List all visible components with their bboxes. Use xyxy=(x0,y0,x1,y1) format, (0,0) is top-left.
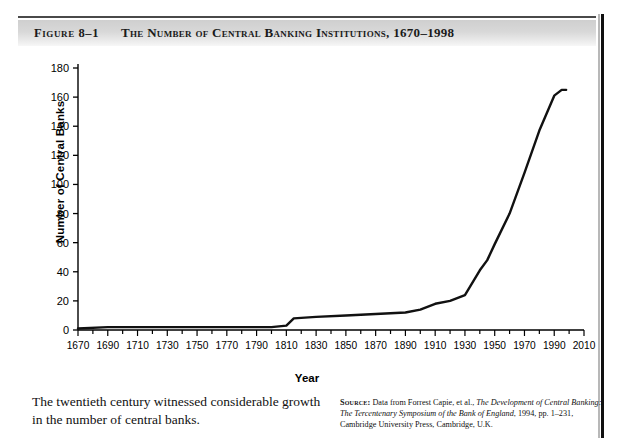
svg-text:1810: 1810 xyxy=(275,340,298,351)
figure-source-note: Source: Data from Forrest Capie, et al.,… xyxy=(340,397,602,431)
svg-text:0: 0 xyxy=(63,324,69,336)
svg-text:40: 40 xyxy=(57,266,69,278)
svg-text:1750: 1750 xyxy=(186,340,209,351)
figure-page: Figure 8–1 The Number of Central Banking… xyxy=(0,0,619,440)
figure-footer: The twentieth century witnessed consider… xyxy=(18,393,596,437)
svg-text:1970: 1970 xyxy=(513,340,536,351)
x-axis-label: Year xyxy=(18,372,596,384)
svg-text:1950: 1950 xyxy=(483,340,506,351)
right-margin-shadow xyxy=(598,14,600,438)
right-margin-rule xyxy=(601,14,604,438)
line-chart: 0204060801001201401601801670169017101730… xyxy=(18,58,596,370)
svg-text:1890: 1890 xyxy=(394,340,417,351)
svg-text:1670: 1670 xyxy=(67,340,90,351)
svg-text:1910: 1910 xyxy=(424,340,447,351)
figure-caption: The twentieth century witnessed consider… xyxy=(32,393,324,429)
svg-text:2010: 2010 xyxy=(573,340,596,351)
source-kicker: Source: xyxy=(340,398,370,407)
svg-text:20: 20 xyxy=(57,295,69,307)
top-divider-rule xyxy=(18,16,596,18)
source-text-part1: Data from Forrest Capie, et al., xyxy=(370,398,476,407)
svg-text:180: 180 xyxy=(51,62,69,74)
figure-title: The Number of Central Banking Institutio… xyxy=(121,25,454,41)
figure-header-band: Figure 8–1 The Number of Central Banking… xyxy=(18,20,596,46)
svg-text:1690: 1690 xyxy=(96,340,119,351)
svg-text:1730: 1730 xyxy=(156,340,179,351)
svg-text:1850: 1850 xyxy=(335,340,358,351)
svg-text:1990: 1990 xyxy=(543,340,566,351)
svg-text:1770: 1770 xyxy=(215,340,238,351)
svg-text:1710: 1710 xyxy=(126,340,149,351)
chart-plot-area: Number of Central Banks 0204060801001201… xyxy=(18,58,596,388)
svg-text:1830: 1830 xyxy=(305,340,328,351)
svg-text:1930: 1930 xyxy=(454,340,477,351)
svg-text:1870: 1870 xyxy=(364,340,387,351)
figure-number-label: Figure 8–1 xyxy=(34,26,99,41)
svg-text:1790: 1790 xyxy=(245,340,268,351)
y-axis-label: Number of Central Banks xyxy=(54,82,66,262)
